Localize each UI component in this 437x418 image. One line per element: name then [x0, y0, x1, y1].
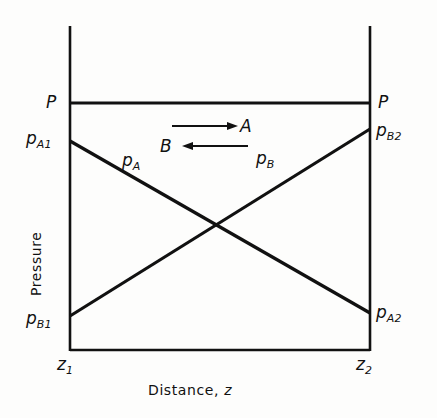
x-axis-title-text: Distance, — [148, 382, 219, 398]
partial-pressure-b1-label: pB1 — [26, 310, 52, 327]
species-b-arrow — [182, 142, 248, 150]
x-tick-label-z1: z1 — [57, 356, 73, 373]
pa-curve-sub: A — [133, 160, 141, 173]
x-tick-z2-sub: 2 — [365, 364, 372, 377]
species-b-label: B — [160, 138, 172, 155]
partial-pressure-a1-label: pA1 — [26, 130, 52, 147]
pa1-sub: A1 — [37, 138, 52, 151]
partial-pressure-b2-label: pB2 — [376, 122, 402, 139]
total-pressure-label-left: P — [46, 94, 56, 111]
pa1-var: p — [26, 128, 37, 148]
pa2-sub: A2 — [387, 312, 402, 325]
x-axis-title-var: z — [224, 382, 232, 398]
partial-pressure-b-curve-label: pB — [256, 150, 275, 167]
x-tick-label-z2: z2 — [356, 356, 372, 373]
total-pressure-label-right: P — [378, 94, 388, 111]
x-tick-z2-var: z — [356, 354, 365, 374]
x-tick-z1-sub: 1 — [66, 364, 73, 377]
pa2-var: p — [376, 302, 387, 322]
species-a-label: A — [240, 118, 252, 135]
pb-curve-sub: B — [267, 158, 275, 171]
pb2-sub: B2 — [387, 130, 402, 143]
partial-pressure-a-curve-label: pA — [122, 152, 141, 169]
species-a-arrow — [172, 122, 238, 130]
pb1-sub: B1 — [37, 318, 52, 331]
x-tick-z1-var: z — [57, 354, 66, 374]
x-axis-title: Distance, z — [148, 382, 232, 398]
partial-pressure-a2-label: pA2 — [376, 304, 402, 321]
y-axis-title: Pressure — [28, 231, 44, 296]
pa-curve-var: p — [122, 150, 133, 170]
diffusion-pressure-figure: Pressure Distance, z z1 z2 P P pA1 pB2 p… — [0, 0, 437, 418]
pb-curve-var: p — [256, 148, 267, 168]
pb1-var: p — [26, 308, 37, 328]
pb2-var: p — [376, 120, 387, 140]
